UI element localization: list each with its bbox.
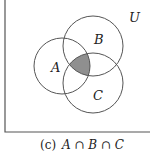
set-b-label: B bbox=[93, 32, 104, 47]
set-c-label: C bbox=[93, 88, 103, 103]
caption-expression: A ∩ B ∩ C bbox=[61, 138, 124, 152]
venn-diagram: U A B C (c) A ∩ B ∩ C bbox=[0, 0, 150, 153]
set-a-label: A bbox=[50, 60, 60, 75]
set-c-circle bbox=[63, 53, 123, 113]
caption-prefix: (c) bbox=[40, 138, 56, 152]
universe-label: U bbox=[129, 10, 141, 25]
set-b-circle bbox=[63, 16, 123, 76]
